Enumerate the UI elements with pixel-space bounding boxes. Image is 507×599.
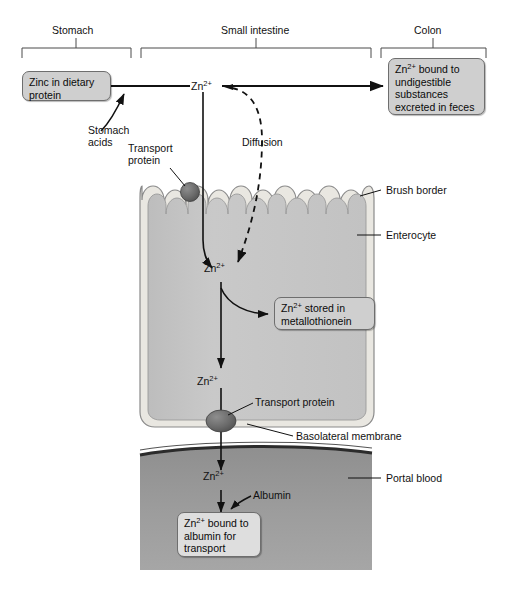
label-albumin: Albumin — [253, 489, 291, 501]
zn-base: Zn — [197, 375, 209, 387]
box-zinc-dietary-line2: protein — [29, 89, 104, 102]
ion-label-zn-cytoplasm-top: Zn2+ — [204, 262, 225, 274]
zinc-absorption-diagram: Stomach Small intestine Colon Zinc in di… — [0, 0, 507, 599]
ion-label-zn-lumen: Zn2+ — [191, 80, 212, 92]
region-label-small-intestine: Small intestine — [221, 24, 289, 37]
region-bracket-stomach — [22, 38, 131, 58]
zn-rest: stored in — [302, 302, 345, 314]
zn-rest: bound to — [205, 517, 249, 529]
label-stomach-acids-line2: acids — [88, 136, 113, 148]
box-zn-stored-metallothionein: Zn2+ stored in metallothionein — [274, 297, 375, 330]
label-transport-protein-basal: Transport protein — [255, 396, 335, 408]
zn-base: Zn — [281, 302, 293, 314]
box-undigestible-line2: undigestible — [395, 76, 478, 89]
region-bracket-colon — [381, 38, 486, 58]
zn-charge: 2+ — [209, 374, 218, 383]
zn-base: Zn — [395, 63, 407, 75]
zn-charge: 2+ — [216, 261, 225, 270]
label-brush-border: Brush border — [386, 184, 447, 196]
box-albumin-line2: albumin for — [184, 530, 254, 543]
zn-base: Zn — [191, 80, 203, 92]
zn-base: Zn — [203, 470, 215, 482]
label-diffusion: Diffusion — [242, 136, 283, 148]
region-label-colon: Colon — [414, 24, 441, 37]
region-label-stomach: Stomach — [52, 24, 93, 37]
box-metallothionein-line1: Zn2+ stored in — [281, 302, 368, 315]
box-undigestible-line4: excreted in feces — [395, 101, 478, 114]
box-undigestible-line1: Zn2+ bound to — [395, 63, 478, 76]
zn-charge: 2+ — [203, 79, 212, 88]
box-zinc-dietary-line1: Zinc in dietary — [29, 76, 104, 89]
box-albumin-line3: transport — [184, 542, 254, 555]
zn-charge: 2+ — [407, 62, 416, 71]
zn-base: Zn — [204, 262, 216, 274]
transport-protein-apical-icon — [181, 183, 200, 202]
zn-rest: bound to — [416, 63, 460, 75]
zn-charge: 2+ — [215, 469, 224, 478]
zn-base: Zn — [184, 517, 196, 529]
box-zinc-in-dietary-protein: Zinc in dietary protein — [22, 71, 111, 101]
box-metallothionein-line2: metallothionein — [281, 315, 368, 328]
ion-label-zn-portal-blood: Zn2+ — [203, 470, 224, 482]
ion-label-zn-cytoplasm-bottom: Zn2+ — [197, 375, 218, 387]
box-zn-bound-albumin: Zn2+ bound to albumin for transport — [177, 512, 261, 557]
label-transport-protein-apical-line2: protein — [128, 154, 160, 166]
box-albumin-line1: Zn2+ bound to — [184, 517, 254, 530]
box-zn-bound-undigestible: Zn2+ bound to undigestible substances ex… — [388, 58, 485, 115]
label-stomach-acids-line1: Stomach — [88, 124, 129, 136]
label-enterocyte: Enterocyte — [386, 229, 436, 241]
region-bracket-small-intestine — [141, 38, 371, 58]
zn-charge: 2+ — [293, 301, 302, 310]
label-portal-blood: Portal blood — [386, 472, 442, 484]
label-basolateral-membrane: Basolateral membrane — [296, 430, 402, 442]
label-transport-protein-apical-line1: Transport — [128, 142, 173, 154]
leader-transport-protein-apical — [170, 168, 185, 186]
box-undigestible-line3: substances — [395, 88, 478, 101]
zn-charge: 2+ — [196, 516, 205, 525]
